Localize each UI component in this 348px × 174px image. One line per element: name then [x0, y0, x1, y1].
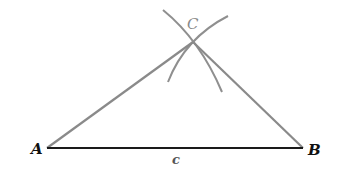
vertex-label-a: A — [29, 140, 43, 158]
side-label-c: c — [172, 152, 180, 167]
triangle-construction-diagram: A B C c — [0, 0, 348, 174]
vertex-label-b: B — [307, 141, 321, 159]
side-cb — [193, 42, 303, 148]
side-ac — [47, 42, 193, 148]
vertex-label-c: C — [187, 15, 199, 33]
